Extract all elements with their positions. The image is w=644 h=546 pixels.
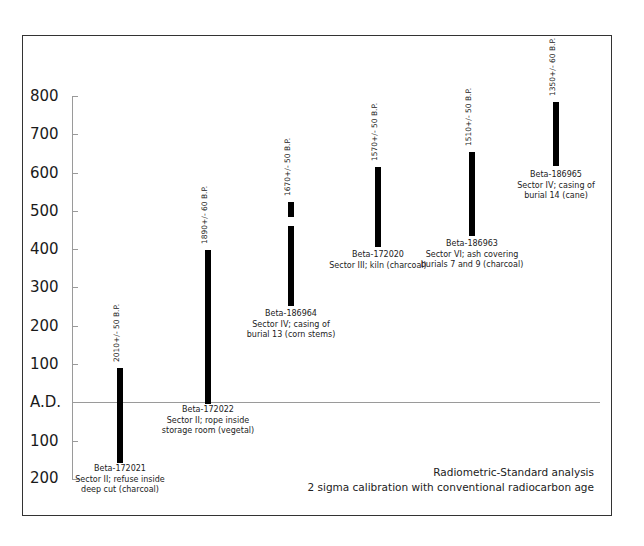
sample-label-beta-172020: Beta-172020 Sector III; kiln (charcoal)	[329, 250, 426, 271]
ad-reference-line	[72, 402, 600, 403]
y-tick	[72, 249, 78, 250]
y-tick	[72, 441, 78, 442]
y-label-400: 400	[30, 241, 70, 257]
sample-desc-line2: burials 7 and 9 (charcoal)	[421, 260, 524, 271]
range-bar-beta-172022	[205, 250, 211, 404]
sample-desc-line1: Sector IV; casing of	[517, 181, 594, 192]
sample-label-beta-186965: Beta-186965 Sector IV; casing of burial …	[517, 170, 594, 202]
y-tick	[72, 211, 78, 212]
y-label-700: 700	[30, 126, 70, 142]
chart-frame	[22, 35, 612, 516]
sample-id: Beta-172022	[162, 405, 254, 416]
y-tick	[72, 287, 78, 288]
analysis-method-note: Radiometric-Standard analysis	[433, 465, 594, 479]
y-label-100-bc: 100	[30, 433, 70, 449]
y-tick	[72, 134, 78, 135]
sample-id: Beta-186963	[421, 239, 524, 250]
y-label-200: 200	[30, 318, 70, 334]
range-bar-beta-172021	[117, 368, 123, 463]
range-bar-beta-172020	[375, 167, 381, 247]
sample-label-beta-172022: Beta-172022 Sector II; rope inside stora…	[162, 405, 254, 437]
date-label: 1510+/- 50 B.P.	[464, 88, 473, 146]
y-label-800: 800	[30, 88, 70, 104]
range-bar-beta-186965	[553, 102, 559, 166]
date-label: 1570+/- 50 B.P.	[370, 103, 379, 161]
sample-desc-line1: Sector VI; ash covering	[421, 250, 524, 261]
date-label: 2010+/- 50 B.P.	[112, 304, 121, 362]
y-tick	[72, 326, 78, 327]
sample-desc-line2: storage room (vegetal)	[162, 426, 254, 437]
sample-desc-line1: Sector II; refuse inside	[75, 475, 164, 486]
y-tick	[72, 96, 78, 97]
y-label-200-bc: 200	[30, 470, 70, 486]
y-label-100: 100	[30, 356, 70, 372]
sample-desc-line1: Sector IV; casing of	[247, 320, 336, 331]
range-bar-beta-186964-upper	[288, 202, 294, 217]
sample-desc-line1: Sector II; rope inside	[162, 416, 254, 427]
y-tick	[72, 364, 78, 365]
y-label-600: 600	[30, 165, 70, 181]
sample-label-beta-172021: Beta-172021 Sector II; refuse inside dee…	[75, 464, 164, 496]
date-label: 1670+/- 50 B.P.	[283, 138, 292, 196]
range-bar-beta-186964-lower	[288, 226, 294, 306]
date-label: 1350+/- 60 B.P.	[548, 38, 557, 96]
sample-id: Beta-172020	[329, 250, 426, 261]
y-label-ad: A.D.	[30, 394, 70, 410]
sample-desc-line2: burial 13 (corn stems)	[247, 330, 336, 341]
sample-id: Beta-186965	[517, 170, 594, 181]
date-label: 1890+/- 60 B.P.	[200, 186, 209, 244]
calibration-note: 2 sigma calibration with conventional ra…	[308, 480, 595, 494]
sample-label-beta-186963: Beta-186963 Sector VI; ash covering buri…	[421, 239, 524, 271]
sample-label-beta-186964: Beta-186964 Sector IV; casing of burial …	[247, 309, 336, 341]
sample-desc-line1: Sector III; kiln (charcoal)	[329, 261, 426, 272]
y-tick	[72, 173, 78, 174]
range-bar-beta-186963	[469, 152, 475, 236]
y-label-300: 300	[30, 279, 70, 295]
y-label-500: 500	[30, 203, 70, 219]
sample-desc-line2: burial 14 (cane)	[517, 191, 594, 202]
sample-id: Beta-172021	[75, 464, 164, 475]
sample-id: Beta-186964	[247, 309, 336, 320]
sample-desc-line2: deep cut (charcoal)	[75, 485, 164, 496]
